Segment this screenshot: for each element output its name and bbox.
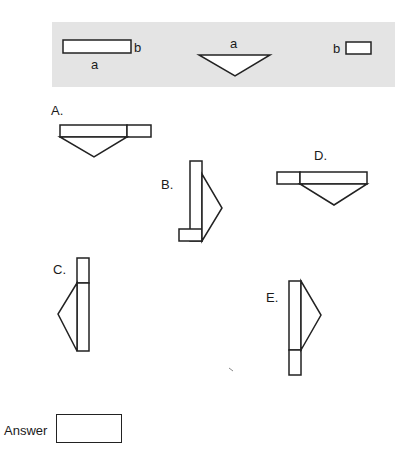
figures-canvas [0, 0, 413, 461]
answer-label: Answer [4, 423, 47, 438]
option-d-figure [277, 172, 367, 205]
option-d-label: D. [314, 149, 327, 162]
stray-mark [229, 368, 233, 371]
key-rect-long-height-label: b [134, 41, 141, 54]
option-c-label: C. [53, 263, 66, 276]
option-a-label: A. [51, 104, 63, 117]
key-rect-small [346, 42, 371, 54]
key-rect-long [63, 40, 131, 53]
option-e-figure [289, 281, 321, 375]
option-e-label: E. [266, 291, 278, 304]
key-rect-small-label: b [333, 42, 340, 55]
option-b-label: B. [161, 178, 173, 191]
key-triangle-label: a [230, 37, 237, 50]
option-b-figure [179, 161, 222, 241]
option-a-figure [60, 125, 151, 157]
key-rect-long-width-label: a [91, 58, 98, 71]
key-triangle [199, 55, 270, 76]
answer-input-box[interactable] [56, 414, 122, 443]
